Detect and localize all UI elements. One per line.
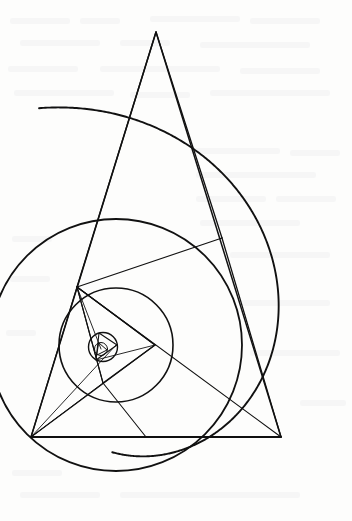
triangle-2 [77,287,155,383]
figure-root [0,0,352,521]
chord-left-to-innerctr [31,345,116,437]
geometry-figure [0,0,352,521]
chord-innerbot-down [103,383,146,437]
chord-innerright-tiny [96,345,155,360]
chord-left-to-innerbot [31,383,103,437]
chord-midright-to-top [77,238,222,287]
